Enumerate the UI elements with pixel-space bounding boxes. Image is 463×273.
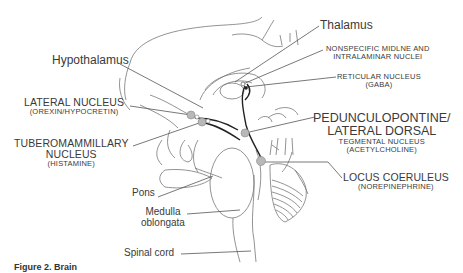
label-thalamus: Thalamus xyxy=(320,19,373,32)
midline-nuclei-dot xyxy=(241,82,245,86)
label-pons: Pons xyxy=(132,188,155,199)
label-medulla-oblongata: Medulla oblongata xyxy=(141,207,185,228)
pedunculopontine-dot xyxy=(241,129,249,137)
locus-coeruleus-dot xyxy=(257,157,266,166)
label-tuberomammillary: TUBEROMAMMILLARY NUCLEUS (HISTAMINE) xyxy=(14,138,129,168)
label-reticular-nucleus: RETICULAR NUCLEUS (GABA) xyxy=(337,73,421,89)
label-nonspecific-nuclei: NONSPECIFIC MIDLNE AND INTRALAMINAR NUCL… xyxy=(326,45,430,61)
label-spinal-cord: Spinal cord xyxy=(124,248,174,259)
label-locus-coeruleus: LOCUS COERULEUS (NOREPINEPHRINE) xyxy=(343,172,449,191)
tuberomammillary-dot xyxy=(198,118,206,126)
figure-caption: Figure 2. Brain xyxy=(14,262,77,272)
reticular-nucleus-dot xyxy=(244,86,248,90)
label-hypothalamus: Hypothalamus xyxy=(52,54,129,67)
label-pedunculopontine: PEDUNCULOPONTINE/ LATERAL DORSAL TEGMENT… xyxy=(313,112,451,154)
lateral-nucleus-dot xyxy=(187,111,195,119)
label-lateral-nucleus: LATERAL NUCLEUS (OREXIN/HYPOCRETIN) xyxy=(24,97,124,116)
